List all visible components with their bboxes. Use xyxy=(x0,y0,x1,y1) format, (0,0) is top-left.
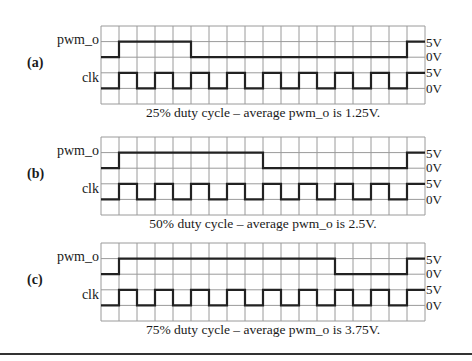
pwm-low-voltage-label: 0V xyxy=(426,267,442,280)
panel-label: (c) xyxy=(27,272,43,288)
pwm-high-voltage-label: 5V xyxy=(426,253,442,266)
pwm-signal-label: pwm_o xyxy=(57,249,99,265)
timing-diagram-c xyxy=(0,0,472,340)
bottom-rule xyxy=(0,353,472,355)
clk-signal-label: clk xyxy=(82,287,99,303)
clk-high-voltage-label: 5V xyxy=(426,283,442,296)
clk-low-voltage-label: 0V xyxy=(426,299,442,312)
panel-c: (c) pwm_o clk 5V 0V 5V 0V 75% duty cycle… xyxy=(0,0,472,110)
caption: 75% duty cycle – average pwm_o is 3.75V. xyxy=(101,322,425,338)
